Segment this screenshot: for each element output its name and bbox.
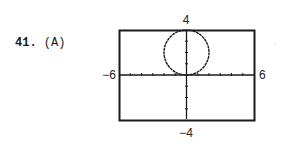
ymin-label: −4 [179,126,193,140]
graph: 4 −4 −6 6 [0,0,284,145]
ymax-label: 4 [183,13,190,27]
xmin-label: −6 [102,68,116,82]
xmax-label: 6 [259,68,266,82]
scan-speck [274,43,275,44]
